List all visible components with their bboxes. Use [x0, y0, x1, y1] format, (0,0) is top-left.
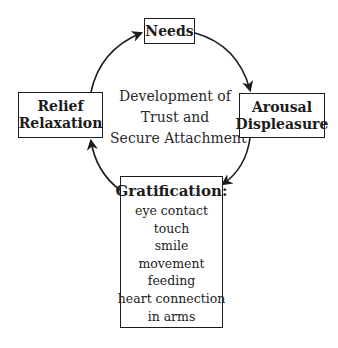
gratification-item: feeding [148, 272, 195, 290]
node-title: Relief [37, 98, 83, 115]
node-arousal: Arousal Displeasure [239, 93, 325, 138]
node-relief: Relief Relaxation [18, 92, 103, 138]
gratification-item: eye contact [135, 202, 208, 220]
node-title: Gratification: [116, 182, 228, 201]
center-label: Development of Trust and Secure Attachme… [110, 86, 240, 149]
node-title: Needs [145, 23, 193, 40]
gratification-item: touch [154, 220, 190, 238]
gratification-item: in arms [148, 308, 196, 326]
center-label-line: Development of [110, 86, 240, 107]
gratification-item: heart connection [118, 290, 226, 308]
arrow-needs-to-arousal [195, 33, 250, 90]
node-title: Displeasure [236, 116, 329, 133]
gratification-item: smile [155, 237, 189, 255]
node-title: Arousal [252, 99, 312, 116]
node-needs: Needs [144, 18, 195, 44]
gratification-item: movement [138, 255, 204, 273]
center-label-line: Trust and [110, 107, 240, 128]
attachment-cycle-diagram: Development of Trust and Secure Attachme… [0, 0, 338, 348]
arrow-relief-to-needs [91, 33, 141, 92]
node-gratification: Gratification: eye contact touch smile m… [120, 176, 223, 328]
node-title: Relaxation [19, 115, 103, 132]
center-label-line: Secure Attachment [110, 128, 240, 149]
